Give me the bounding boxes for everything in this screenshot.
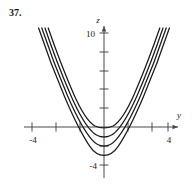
y-axis-label-z: z <box>95 15 100 25</box>
x-tick-label-pos4: 4 <box>167 135 172 145</box>
x-axis-label-y: y <box>176 110 181 120</box>
x-axis-arrowhead <box>173 125 179 130</box>
figure-container: 37. <box>0 0 193 187</box>
y-tick-label-neg4: -4 <box>90 161 98 171</box>
y-axis-arrowhead <box>102 26 107 32</box>
x-axis-group <box>24 123 178 132</box>
x-tick-label-neg4: -4 <box>29 135 37 145</box>
plot-area: z y -4 4 10 -4 <box>0 0 193 187</box>
y-tick-label-10: 10 <box>86 29 96 39</box>
